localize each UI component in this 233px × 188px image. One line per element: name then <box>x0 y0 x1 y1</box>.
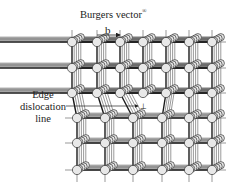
lattice-atom <box>92 88 101 97</box>
lattice-atom <box>184 63 193 72</box>
lattice-atom <box>207 37 216 46</box>
lattice-atom <box>67 37 76 46</box>
lattice-atom <box>161 37 170 46</box>
lattice-atom <box>184 88 193 97</box>
lattice-atom <box>157 113 166 122</box>
lattice-atom <box>128 138 137 147</box>
lattice-atom <box>207 165 216 174</box>
lattice-atom <box>72 113 81 122</box>
lattice-atom <box>157 138 166 147</box>
lattice-atom <box>138 37 147 46</box>
lattice-atom <box>207 88 216 97</box>
lattice-atom <box>72 165 81 174</box>
lattice-atom <box>100 113 109 122</box>
lattice-atom <box>207 113 216 122</box>
lattice-atom <box>184 165 193 174</box>
lattice-atom <box>184 37 193 46</box>
lattice-atom <box>161 88 170 97</box>
lattice-atom <box>161 63 170 72</box>
lattice-atom <box>157 165 166 174</box>
dislocation-symbol: ⊥ <box>140 102 147 111</box>
lattice-atom <box>184 138 193 147</box>
lattice-atom <box>92 63 101 72</box>
lattice-atom <box>207 63 216 72</box>
lattice-atom <box>67 88 76 97</box>
lattice-atom <box>128 113 137 122</box>
lattice-atom <box>92 37 101 46</box>
lattice-atom <box>138 88 147 97</box>
lattice-bond <box>124 91 137 116</box>
lattice-atom <box>207 138 216 147</box>
lattice-atom <box>115 88 124 97</box>
lattice-atom <box>67 63 76 72</box>
crystal-lattice-diagram: ⊥ <box>0 0 233 188</box>
lattice-atom <box>184 113 193 122</box>
lattice-atom <box>128 165 137 174</box>
lattice-atom <box>115 63 124 72</box>
lattice-atom <box>115 37 124 46</box>
lattice-atom <box>72 138 81 147</box>
lattice-atom <box>138 63 147 72</box>
lattice-atom <box>100 138 109 147</box>
lattice-atom <box>100 165 109 174</box>
